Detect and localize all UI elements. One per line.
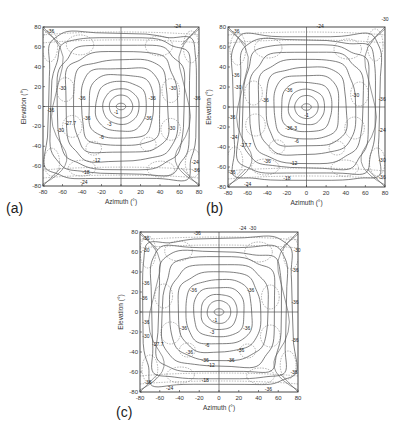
y-tick-label: -40	[129, 349, 138, 355]
x-tick-label: -80	[136, 395, 145, 401]
y-axis-label: Elevation (°)	[117, 294, 125, 329]
contour-plot-c: -1-3-6-12-18-24-30-36-36-36-36-30-36-36-…	[0, 0, 409, 439]
contour-label: -36	[194, 230, 201, 236]
contour-label: -6	[205, 342, 210, 348]
contour-label: -24	[239, 225, 246, 231]
contour-label: -36	[142, 235, 149, 241]
y-tick-label: 20	[131, 289, 138, 295]
contour-label: -36	[202, 357, 209, 363]
contour-label: -36	[142, 280, 149, 286]
contour-label: -36	[237, 347, 244, 353]
x-tick-label: 80	[295, 395, 302, 401]
y-tick-label: -20	[129, 329, 138, 335]
contour-label: -30	[249, 225, 256, 231]
contour-label: -36	[243, 325, 250, 331]
contour-label: -30	[293, 247, 300, 253]
y-tick-label: -80	[129, 389, 138, 395]
contour-label: -36	[291, 267, 298, 273]
contour-label: -36	[180, 325, 187, 331]
contour-label: -30	[142, 247, 149, 253]
contour-label: -36	[290, 369, 297, 375]
panel-label-c: (c)	[116, 404, 132, 420]
contour-label: -36	[291, 337, 298, 343]
contour-label: -36	[190, 287, 197, 293]
contour-label: -36	[186, 349, 193, 355]
x-tick-label: -40	[175, 395, 184, 401]
contour-label: -24	[166, 385, 173, 391]
contour-label: -27.7	[152, 341, 164, 347]
x-tick-label: -60	[155, 395, 164, 401]
contour-label: -36	[291, 299, 298, 305]
x-tick-label: 0	[217, 395, 221, 401]
contour-label: -36	[140, 295, 147, 301]
contour-label: -3	[210, 329, 215, 335]
y-tick-label: 80	[131, 229, 138, 235]
contour-label: -1	[213, 317, 218, 323]
x-tick-label: 60	[275, 395, 282, 401]
x-axis-label: Azimuth (°)	[203, 404, 235, 412]
y-tick-label: 40	[131, 269, 138, 275]
y-tick-label: -60	[129, 369, 138, 375]
contour-label: -36	[142, 319, 149, 325]
x-tick-label: -20	[195, 395, 204, 401]
contour-label: -18	[202, 377, 209, 383]
y-tick-label: 0	[135, 309, 139, 315]
y-tick-label: 60	[131, 249, 138, 255]
contour-label: -36	[247, 287, 254, 293]
x-tick-label: 40	[255, 395, 262, 401]
contour-panel-c: -1-3-6-12-18-24-30-36-36-36-36-30-36-36-…	[0, 0, 409, 439]
contour-label: -36	[265, 386, 272, 392]
x-tick-label: 20	[235, 395, 242, 401]
contour-label: -36	[144, 379, 151, 385]
contour-label: -30	[142, 333, 149, 339]
contour-label: -36	[227, 357, 234, 363]
